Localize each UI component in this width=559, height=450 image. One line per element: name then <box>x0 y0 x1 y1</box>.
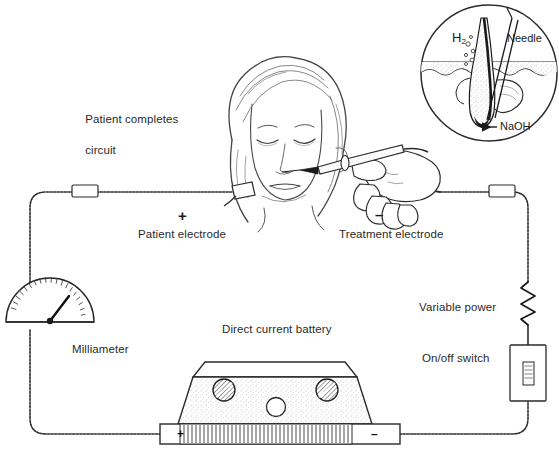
battery-unit <box>160 362 400 444</box>
on-off-switch-box[interactable] <box>510 345 546 401</box>
label-naoh: NaOH <box>500 120 531 132</box>
patient-electrode-polarity-sign: + <box>178 207 187 224</box>
variable-power-resistor <box>521 282 535 325</box>
label-hydrogen: H2 <box>452 30 466 46</box>
diagram-svg <box>0 0 559 450</box>
label-direct-current-battery: Direct current battery <box>222 322 332 338</box>
follicle-inset <box>421 5 557 141</box>
milliameter-gauge <box>6 277 94 324</box>
label-line-1: Patient completes <box>85 113 178 125</box>
treatment-electrode-polarity-sign: – <box>375 206 383 223</box>
patient-head-illustration <box>229 57 348 232</box>
wire-connector-right <box>489 185 515 197</box>
hydrogen-symbol: H <box>452 30 461 45</box>
label-needle: Needle <box>507 32 542 44</box>
label-patient-completes-circuit: Patient completes circuit <box>72 96 178 174</box>
label-on-off-switch: On/off switch <box>422 351 490 367</box>
battery-screw-right <box>316 379 338 401</box>
label-treatment-electrode: Treatment electrode <box>339 227 443 243</box>
wire-connector-left <box>72 185 98 197</box>
label-patient-electrode: Patient electrode <box>138 227 226 243</box>
battery-negative-terminal-label: – <box>371 427 378 441</box>
label-milliameter: Milliameter <box>72 342 129 358</box>
label-line-2: circuit <box>85 144 116 156</box>
label-variable-power: Variable power <box>419 300 496 316</box>
figure-canvas: Patient completes circuit + Patient elec… <box>0 0 559 450</box>
hydrogen-subscript: 2 <box>461 37 465 46</box>
patient-electrode-pad <box>224 182 255 206</box>
battery-positive-terminal-label: + <box>177 427 184 441</box>
battery-screw-left <box>213 379 235 401</box>
